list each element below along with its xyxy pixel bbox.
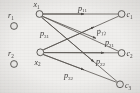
edge-x2-c1-arrowhead (43, 27, 94, 50)
node-label-c2-sub: 2 (130, 53, 133, 59)
node-label-r1-sub: 1 (11, 15, 14, 21)
edge-label-p11-sub: 11 (82, 8, 87, 13)
edge-label-p12-sub: 12 (101, 31, 107, 37)
node-c3 (117, 81, 124, 88)
edge-label-p32: p32 (63, 71, 74, 81)
edges-layer (42, 14, 119, 82)
node-r1 (11, 23, 18, 30)
node-label-x2: x2 (34, 58, 42, 68)
edge-x1-c3-arrowhead (42, 17, 94, 62)
node-x1 (36, 11, 43, 18)
edge-label-p11: p11 (77, 4, 87, 14)
node-label-r2: r2 (8, 49, 14, 59)
node-c2 (118, 50, 125, 57)
node-r2 (11, 61, 18, 68)
node-label-c3: c3 (125, 81, 132, 91)
edge-label-p21: p21 (104, 38, 115, 48)
node-c1 (118, 11, 125, 18)
edge-x2-c3-arrowhead (43, 54, 84, 69)
figure-canvas: { "figure": { "type": "bipartite-network… (0, 0, 140, 93)
node-label-x2-sub: 2 (38, 61, 41, 67)
edge-label-p12: p12 (95, 26, 107, 37)
edge-label-p22-sub: 22 (100, 62, 106, 67)
node-label-c2: c2 (127, 49, 134, 59)
node-x2 (37, 49, 44, 56)
node-label-x1: x1 (33, 0, 41, 10)
edge-label-p32-sub: 32 (68, 76, 74, 81)
edge-label-p31-sub: 31 (44, 34, 50, 39)
edge-label-p21-sub: 21 (109, 43, 115, 48)
node-label-c1-sub: 1 (130, 14, 133, 20)
node-label-r1: r1 (8, 11, 14, 21)
node-label-c1: c1 (127, 10, 134, 20)
node-label-r2-sub: 2 (11, 53, 14, 59)
edge-label-p31: p31 (39, 29, 50, 39)
edge-label-p22: p22 (95, 57, 106, 67)
node-label-x1-sub: 1 (37, 4, 40, 10)
network-diagram: r1 r2 x1 x2 c1 c2 c3 p11 p12 p22 (0, 0, 140, 93)
node-label-c3-sub: 3 (129, 85, 132, 91)
edge-x1-c2-arrowhead (42, 16, 96, 38)
